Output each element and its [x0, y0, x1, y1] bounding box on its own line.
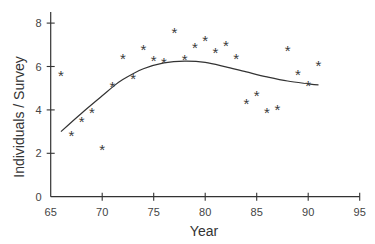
- tick-labels: 6570758085909502468: [36, 17, 366, 218]
- x-tick-label: 90: [302, 206, 314, 218]
- data-point-asterisk: *: [233, 50, 239, 67]
- x-tick-label: 65: [45, 206, 57, 218]
- data-point-asterisk: *: [316, 57, 322, 74]
- x-tick-label: 95: [354, 206, 366, 218]
- data-point-asterisk: *: [254, 87, 260, 104]
- data-point-asterisk: *: [130, 70, 136, 87]
- data-point-asterisk: *: [99, 141, 105, 158]
- data-point-asterisk: *: [182, 51, 188, 68]
- data-point-asterisk: *: [305, 77, 311, 94]
- data-point-asterisk: *: [192, 39, 198, 56]
- x-tick-label: 75: [148, 206, 160, 218]
- data-point-asterisk: *: [140, 41, 146, 58]
- data-point-asterisk: *: [274, 101, 280, 118]
- data-point-asterisk: *: [223, 37, 229, 54]
- data-point-asterisk: *: [213, 44, 219, 61]
- y-tick-label: 8: [36, 17, 42, 29]
- y-tick-label: 2: [36, 147, 42, 159]
- data-point-asterisk: *: [202, 32, 208, 49]
- y-tick-label: 0: [36, 191, 42, 203]
- scatter-chart: 6570758085909502468 ********************…: [0, 0, 375, 244]
- data-point-asterisk: *: [89, 104, 95, 121]
- x-tick-label: 85: [251, 206, 263, 218]
- chart-canvas: 6570758085909502468 ********************…: [0, 0, 375, 244]
- data-points: **************************: [58, 24, 322, 158]
- data-point-asterisk: *: [285, 42, 291, 59]
- x-tick-label: 80: [199, 206, 211, 218]
- y-tick-label: 6: [36, 61, 42, 73]
- y-tick-label: 4: [36, 104, 42, 116]
- y-axis-title: Individuals / Survey: [11, 56, 27, 177]
- data-point-asterisk: *: [243, 95, 249, 112]
- data-point-asterisk: *: [68, 127, 74, 144]
- data-point-asterisk: *: [161, 54, 167, 71]
- x-tick-label: 70: [96, 206, 108, 218]
- data-point-asterisk: *: [120, 50, 126, 67]
- data-point-asterisk: *: [171, 24, 177, 41]
- data-point-asterisk: *: [151, 52, 157, 69]
- data-point-asterisk: *: [264, 104, 270, 121]
- fit-line: [61, 61, 319, 132]
- data-point-asterisk: *: [110, 78, 116, 95]
- x-axis-title: Year: [190, 223, 219, 239]
- data-point-asterisk: *: [58, 67, 64, 84]
- data-point-asterisk: *: [295, 66, 301, 83]
- data-point-asterisk: *: [79, 113, 85, 130]
